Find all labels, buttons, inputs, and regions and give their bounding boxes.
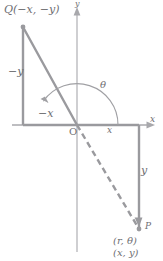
polar-coordinate-figure: Q(−x, −y) −y −x y x O x θ y P (r, θ) (x,…: [0, 0, 163, 261]
label-x-component: x: [107, 126, 112, 135]
label-origin: O: [69, 127, 77, 137]
label-y-axis: y: [75, 0, 80, 8]
point-marker-q: [21, 25, 26, 30]
point-marker-p: [137, 227, 142, 232]
theta-arc-arrowhead-icon: [41, 97, 49, 104]
label-y-component: y: [141, 165, 147, 176]
label-negative-x: −x: [38, 108, 53, 119]
label-point-q: Q(−x, −y): [4, 4, 59, 15]
label-p-cartesian-coordinates: (x, y): [113, 248, 138, 258]
y-axis-arrowhead-icon: [74, 7, 81, 16]
label-negative-y: −y: [8, 66, 23, 77]
segment-ray-o-to-p: [77, 125, 139, 229]
label-x-axis: x: [150, 115, 155, 124]
label-p-polar-coordinates: (r, θ): [113, 236, 137, 246]
label-point-p: P: [145, 222, 151, 231]
theta-arc-path: [43, 84, 118, 125]
figure-canvas: [0, 0, 163, 261]
label-theta: θ: [100, 80, 106, 90]
